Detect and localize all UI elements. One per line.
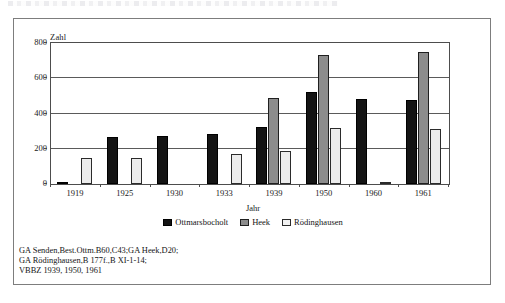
x-tick-label-1939: 1939 — [265, 188, 282, 198]
legend-item-rödinghausen: Rödinghausen — [282, 217, 343, 227]
x-tick-label-1961: 1961 — [415, 188, 432, 198]
bars-layer — [50, 42, 448, 184]
footnote-line: GA Rödinghausen,B 177f.,B XI-1-14; — [19, 256, 479, 266]
bar-1960-ottmarsbocholt — [356, 99, 367, 184]
bar-group-1930 — [157, 42, 192, 184]
bar-1939-rödinghausen — [280, 151, 291, 184]
legend-swatch-icon — [240, 219, 249, 226]
bar-1961-heek — [418, 52, 429, 184]
legend-item-ottmarsbocholt: Ottmarsbocholt — [163, 217, 228, 227]
x-tick-mark — [100, 184, 101, 187]
bar-group-1939 — [256, 42, 291, 184]
x-tick-label-1933: 1933 — [216, 188, 233, 198]
x-tick-label-1960: 1960 — [365, 188, 382, 198]
y-tick-mark — [44, 183, 47, 184]
bar-chart: Zahl 0200400600800 191919251930193319391… — [14, 19, 492, 224]
legend-item-heek: Heek — [240, 217, 270, 227]
bar-1925-ottmarsbocholt — [107, 137, 118, 184]
legend-label: Ottmarsbocholt — [175, 217, 228, 227]
bar-1961-ottmarsbocholt — [406, 100, 417, 184]
y-tick-label: 800 — [17, 37, 47, 47]
bar-1919-rödinghausen — [81, 158, 92, 184]
legend-swatch-icon — [282, 219, 291, 226]
footnote-line: GA Senden,Best.Ottm.B60,C43;GA Heek,D20; — [19, 246, 479, 256]
bar-group-1933 — [207, 42, 242, 184]
y-tick-mark — [44, 77, 47, 78]
x-tick-label-1919: 1919 — [66, 188, 83, 198]
y-tick-mark — [44, 113, 47, 114]
x-tick-mark — [150, 184, 151, 187]
source-footnote: GA Senden,Best.Ottm.B60,C43;GA Heek,D20;… — [19, 246, 479, 277]
bar-1933-rödinghausen — [231, 154, 242, 184]
bar-group-1919 — [57, 42, 92, 184]
y-axis-tick-labels: 0200400600800 — [14, 42, 47, 183]
x-tick-mark — [199, 184, 200, 187]
bar-1950-heek — [318, 55, 329, 184]
bar-1950-rödinghausen — [330, 128, 341, 184]
bar-group-1925 — [107, 42, 142, 184]
legend-label: Heek — [252, 217, 270, 227]
x-tick-label-1925: 1925 — [116, 188, 133, 198]
bar-1939-ottmarsbocholt — [256, 127, 267, 184]
bar-1961-rödinghausen — [430, 129, 441, 184]
x-axis-tick-labels: 19191925193019331939195019601961 — [50, 188, 448, 200]
y-axis-title: Zahl — [50, 32, 66, 42]
y-tick-label: 600 — [17, 72, 47, 82]
legend-swatch-icon — [163, 219, 172, 226]
bar-1939-heek — [268, 98, 279, 184]
bar-group-1961 — [406, 42, 441, 184]
footnote-line: VBBZ 1939, 1950, 1961 — [19, 266, 479, 276]
x-tick-mark — [50, 184, 51, 187]
x-axis-title: Jahr — [14, 203, 492, 213]
bar-1930-ottmarsbocholt — [157, 136, 168, 184]
x-tick-mark — [398, 184, 399, 187]
bar-group-1950 — [306, 42, 341, 184]
x-tick-label-1950: 1950 — [315, 188, 332, 198]
x-tick-label-1930: 1930 — [166, 188, 183, 198]
y-tick-mark — [44, 148, 47, 149]
bar-group-1960 — [356, 42, 391, 184]
y-tick-label: 200 — [17, 143, 47, 153]
y-tick-label: 400 — [17, 108, 47, 118]
bar-1933-ottmarsbocholt — [207, 134, 218, 184]
y-tick-label: 0 — [17, 178, 47, 188]
scan-artifact-strip — [8, 1, 338, 6]
x-tick-mark — [448, 184, 449, 187]
x-tick-mark — [249, 184, 250, 187]
y-tick-mark — [44, 42, 47, 43]
chart-legend: OttmarsbocholtHeekRödinghausen — [14, 217, 492, 227]
x-tick-mark — [349, 184, 350, 187]
x-tick-mark — [299, 184, 300, 187]
figure-frame: Zahl 0200400600800 191919251930193319391… — [13, 18, 491, 285]
legend-label: Rödinghausen — [294, 217, 343, 227]
bar-1950-ottmarsbocholt — [306, 92, 317, 184]
bar-1925-rödinghausen — [131, 158, 142, 184]
